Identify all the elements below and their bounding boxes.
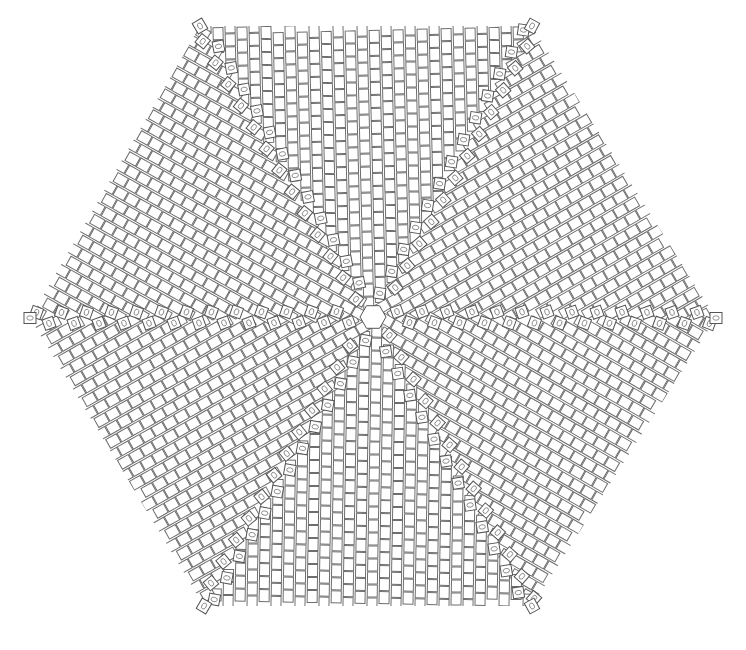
bead xyxy=(381,23,391,35)
bead xyxy=(319,571,329,583)
bead xyxy=(296,519,306,531)
bead xyxy=(297,467,307,479)
bead xyxy=(349,187,359,199)
bead xyxy=(439,599,449,611)
increase-bead xyxy=(409,221,422,234)
bead xyxy=(371,364,381,376)
bead xyxy=(407,114,417,126)
bead xyxy=(395,108,405,120)
bead xyxy=(406,49,416,61)
bead xyxy=(235,589,245,601)
bead xyxy=(455,113,465,125)
bead xyxy=(332,513,342,525)
bead xyxy=(369,30,379,42)
bead xyxy=(349,213,359,225)
bead xyxy=(338,220,348,232)
bead xyxy=(391,585,401,597)
bead xyxy=(417,482,427,494)
hexagon-bead-diagram xyxy=(0,0,746,650)
bead xyxy=(431,126,441,138)
bead xyxy=(429,502,439,514)
bead xyxy=(381,449,391,461)
bead xyxy=(310,64,320,76)
bead xyxy=(487,574,497,586)
bead xyxy=(383,101,393,113)
bead xyxy=(320,545,330,557)
bead xyxy=(272,544,282,556)
increase-bead xyxy=(302,190,315,203)
increase-bead xyxy=(385,265,398,278)
bead xyxy=(419,107,429,119)
bead xyxy=(499,581,509,593)
bead xyxy=(297,480,307,492)
bead xyxy=(272,505,282,517)
bead xyxy=(358,396,368,408)
bead xyxy=(464,535,474,547)
bead xyxy=(476,541,486,553)
bead xyxy=(451,567,461,579)
bead xyxy=(320,532,330,544)
bead xyxy=(372,134,382,146)
bead xyxy=(418,55,428,67)
bead xyxy=(375,264,385,276)
bead xyxy=(275,98,285,110)
bead xyxy=(396,134,406,146)
bead xyxy=(321,31,331,43)
bead xyxy=(383,114,393,126)
bead xyxy=(441,495,451,507)
bead xyxy=(475,580,485,592)
bead xyxy=(309,25,319,37)
bead xyxy=(417,469,427,481)
bead xyxy=(321,454,331,466)
bead xyxy=(300,149,310,161)
bead xyxy=(335,103,345,115)
bead xyxy=(488,561,498,573)
bead xyxy=(392,520,402,532)
bead xyxy=(324,135,334,147)
bead xyxy=(443,93,453,105)
bead xyxy=(408,153,418,165)
bead xyxy=(331,578,341,590)
bead xyxy=(344,559,354,571)
bead xyxy=(358,422,368,434)
bead xyxy=(345,494,355,506)
bead xyxy=(296,558,306,570)
bead xyxy=(310,77,320,89)
bead xyxy=(356,526,366,538)
bead xyxy=(443,106,453,118)
bead xyxy=(417,42,427,54)
bead xyxy=(346,403,356,415)
increase-bead xyxy=(340,255,353,268)
bead xyxy=(249,33,259,45)
bead xyxy=(467,93,477,105)
bead xyxy=(403,592,413,604)
bead xyxy=(311,129,321,141)
bead xyxy=(261,26,271,38)
increase-bead xyxy=(476,521,489,534)
bead xyxy=(394,390,404,402)
increase-bead xyxy=(512,586,525,599)
bead xyxy=(404,553,414,565)
bead xyxy=(373,199,383,211)
bead xyxy=(466,54,476,66)
bead xyxy=(300,162,310,174)
bead xyxy=(337,194,347,206)
bead xyxy=(287,117,297,129)
increase-bead xyxy=(505,46,518,59)
bead xyxy=(454,74,464,86)
bead xyxy=(320,506,330,518)
bead xyxy=(405,501,415,513)
bead xyxy=(362,219,372,231)
bead xyxy=(357,37,367,49)
bead xyxy=(356,552,366,564)
bead xyxy=(394,56,404,68)
bead xyxy=(383,371,393,383)
bead xyxy=(386,218,396,230)
bead xyxy=(384,166,394,178)
bead xyxy=(406,62,416,74)
bead xyxy=(381,462,391,474)
bead xyxy=(369,481,379,493)
bead xyxy=(381,501,391,513)
bead xyxy=(391,572,401,584)
bead xyxy=(381,36,391,48)
